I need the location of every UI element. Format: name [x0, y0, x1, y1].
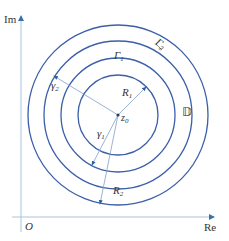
radius-gamma2	[54, 76, 118, 115]
center-point	[116, 113, 119, 116]
x-axis-label: Re	[204, 222, 216, 233]
domain-label: 𝔻	[182, 106, 192, 118]
diagram-graphics	[0, 0, 229, 241]
origin-label: O	[25, 221, 33, 232]
y-axis-label: Im	[4, 14, 16, 25]
complex-plane-diagram: Im Re O z0 Γ1 Γ2 𝔻 R1 R2 γ1 γ2	[0, 0, 229, 241]
center-label: z0	[121, 113, 128, 125]
R2-label: R2	[113, 185, 123, 198]
R1-label: R1	[122, 87, 132, 100]
radius-gamma1	[92, 115, 118, 165]
gamma2-label: γ2	[51, 80, 59, 93]
gamma1-label: γ1	[97, 128, 105, 141]
Gamma1-label: Γ1	[114, 50, 124, 63]
